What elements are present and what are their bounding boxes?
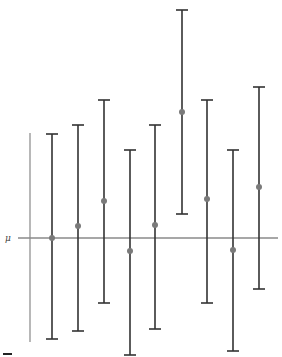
error-bar (176, 10, 188, 214)
error-bar (149, 125, 161, 329)
point-estimate (256, 184, 262, 190)
error-bar (253, 87, 265, 289)
point-estimate (230, 247, 236, 253)
error-bars (46, 10, 265, 355)
point-estimate (152, 222, 158, 228)
point-estimate (49, 235, 55, 241)
error-bar (98, 100, 110, 303)
error-bar (124, 150, 136, 355)
point-estimate (101, 198, 107, 204)
point-estimate (204, 196, 210, 202)
error-bar (72, 125, 84, 331)
error-bar (46, 134, 58, 339)
corner-mark (3, 353, 12, 355)
point-estimate (179, 109, 185, 115)
mu-label: μ (5, 233, 11, 243)
point-estimate (75, 223, 81, 229)
point-estimate (127, 248, 133, 254)
error-bar (201, 100, 213, 303)
error-bar (227, 150, 239, 351)
confidence-interval-chart: μ (0, 0, 282, 357)
